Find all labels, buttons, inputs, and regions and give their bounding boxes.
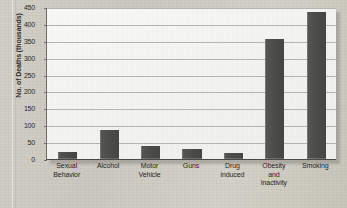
x-axis-tick-label-line: Inactivity [248,179,299,188]
y-axis-tick-mark [44,76,47,77]
x-axis-tick-labels: SexualBehaviorAlcoholMotorVehicleGunsDru… [46,162,336,208]
y-axis-tick-label: 200 [9,88,35,95]
y-axis-tick-label: 400 [9,21,35,28]
y-axis-tick-label: 450 [9,4,35,11]
bar[interactable] [58,152,77,159]
y-axis-tick-mark [44,143,47,144]
y-axis-tick-label: 350 [9,38,35,45]
y-axis-tick-mark [44,160,47,161]
x-axis-tick-label-line: and [248,171,299,180]
gridline [47,126,336,127]
gridline [47,25,336,26]
y-axis-tick-mark [44,92,47,93]
bar[interactable] [100,130,119,159]
gridline [47,42,336,43]
bar[interactable] [307,12,326,159]
y-axis-tick-mark [44,109,47,110]
y-axis-tick-label: 50 [9,139,35,146]
bar[interactable] [265,39,284,159]
gridline [47,8,336,9]
y-axis-tick-mark [44,25,47,26]
y-axis-tick-mark [44,42,47,43]
bar-chart: No. of Deaths (thousands) 05010015020025… [0,0,347,208]
x-axis-tick-label-line: Smoking [290,162,341,171]
y-axis-tick-mark [44,59,47,60]
y-axis-tick-label: 250 [9,72,35,79]
y-axis-tick-label: 300 [9,55,35,62]
y-axis-tick-mark [44,8,47,9]
y-axis-tick-label: 100 [9,122,35,129]
y-axis-tick-mark [44,126,47,127]
bar[interactable] [224,153,243,159]
gridline [47,109,336,110]
x-axis-tick-label-line: Vehicle [124,171,175,180]
x-axis-tick-label: Smoking [290,162,341,171]
gridline [47,76,336,77]
gridline [47,143,336,144]
gridline [47,59,336,60]
plot-shell: 050100150200250300350400450 [46,8,336,160]
bar[interactable] [182,149,201,159]
x-axis-tick-label-line: Behavior [41,171,92,180]
y-axis-tick-label: 0 [9,156,35,163]
gridline [47,92,336,93]
bar[interactable] [141,146,160,160]
y-axis-tick-label: 150 [9,105,35,112]
plot-area [46,8,336,160]
